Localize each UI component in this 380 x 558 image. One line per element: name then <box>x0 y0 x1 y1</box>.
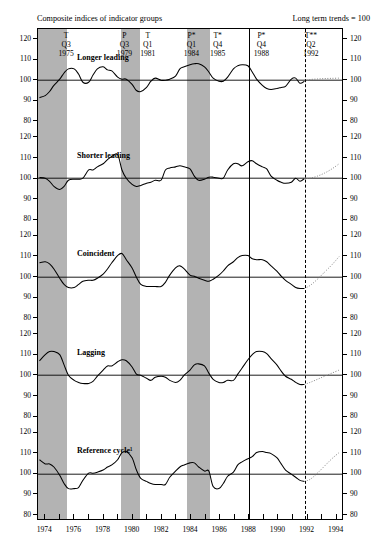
panel-label: Coincident <box>77 249 114 258</box>
turning-point-year: 1981 <box>140 49 155 58</box>
y-tick-mark <box>343 395 347 396</box>
x-tick-mark <box>73 514 74 520</box>
x-tick-mark <box>103 514 104 520</box>
y-tick-mark <box>33 452 37 453</box>
y-tick-mark <box>33 157 37 158</box>
y-tick-mark <box>33 219 37 220</box>
y-tick-label: 100 <box>14 173 31 182</box>
y-tick-mark <box>343 374 347 375</box>
series-line <box>39 451 304 489</box>
x-tick-label: 1974 <box>37 525 52 534</box>
panel-label: Lagging <box>77 348 105 357</box>
x-tick-mark <box>190 514 191 520</box>
y-tick-label: 100 <box>350 75 367 84</box>
y-tick-mark <box>33 473 37 474</box>
y-tick-label: 110 <box>14 153 31 162</box>
y-tick-label: 120 <box>350 34 367 43</box>
chart-panel: Shorter leading <box>38 127 342 225</box>
turning-point-quarter: Q1 <box>143 40 152 49</box>
turning-point-quarter: Q3 <box>120 40 129 49</box>
y-tick-label: 80 <box>14 313 31 322</box>
y-tick-label: 100 <box>14 75 31 84</box>
y-tick-label: 120 <box>350 329 367 338</box>
chart-plot-area: Longer leadingShorter leadingCoincidentL… <box>37 28 343 520</box>
y-tick-label: 100 <box>14 370 31 379</box>
y-tick-label: 100 <box>14 468 31 477</box>
y-tick-mark <box>343 297 347 298</box>
x-tick-mark <box>336 514 337 520</box>
y-tick-label: 80 <box>350 116 367 125</box>
y-tick-label: 120 <box>350 427 367 436</box>
x-tick-mark <box>132 514 133 520</box>
y-tick-label: 110 <box>14 54 31 63</box>
y-tick-mark <box>33 120 37 121</box>
turning-point-quarter: Q4 <box>257 40 266 49</box>
y-tick-mark <box>33 514 37 515</box>
y-tick-label: 90 <box>14 489 31 498</box>
series-projection-line <box>304 164 339 179</box>
y-tick-mark <box>343 276 347 277</box>
y-tick-mark <box>343 157 347 158</box>
y-tick-mark <box>33 79 37 80</box>
turning-point-code: T* <box>213 31 221 40</box>
y-tick-mark <box>33 235 37 236</box>
x-tick-mark <box>146 514 147 520</box>
turning-point-code: T <box>145 31 150 40</box>
y-tick-mark <box>33 333 37 334</box>
y-tick-mark <box>33 276 37 277</box>
x-tick-label: 1992 <box>299 525 314 534</box>
y-tick-label: 100 <box>350 370 367 379</box>
y-tick-mark <box>33 100 37 101</box>
y-tick-mark <box>343 120 347 121</box>
y-tick-label: 90 <box>350 194 367 203</box>
y-tick-label: 80 <box>350 411 367 420</box>
y-tick-mark <box>343 79 347 80</box>
y-tick-mark <box>33 297 37 298</box>
x-tick-label: 1986 <box>212 525 227 534</box>
turning-point-year: 1985 <box>210 49 225 58</box>
turning-point-year: 1984 <box>184 49 199 58</box>
series-projection-line <box>304 452 339 481</box>
turning-point-code: T** <box>305 31 317 40</box>
y-tick-mark <box>343 255 347 256</box>
turning-point-quarter: Q3 <box>62 40 71 49</box>
y-tick-label: 110 <box>350 251 367 260</box>
x-tick-label: 1982 <box>153 525 168 534</box>
y-tick-label: 80 <box>14 510 31 519</box>
y-tick-label: 110 <box>14 349 31 358</box>
y-tick-mark <box>343 416 347 417</box>
y-tick-label: 90 <box>350 489 367 498</box>
y-tick-mark <box>33 493 37 494</box>
x-tick-mark <box>307 514 308 520</box>
y-tick-label: 110 <box>14 251 31 260</box>
series-projection-line <box>304 256 339 288</box>
y-tick-label: 80 <box>14 411 31 420</box>
y-tick-mark <box>343 219 347 220</box>
y-tick-mark <box>33 178 37 179</box>
x-tick-mark <box>263 514 264 520</box>
y-tick-mark <box>33 432 37 433</box>
y-tick-label: 120 <box>14 230 31 239</box>
chart-panel: Reference cycle¹ <box>38 423 342 521</box>
y-tick-mark <box>33 354 37 355</box>
y-tick-label: 110 <box>350 153 367 162</box>
x-tick-mark <box>175 514 176 520</box>
x-tick-mark <box>161 514 162 520</box>
y-tick-mark <box>33 317 37 318</box>
y-tick-label: 90 <box>14 292 31 301</box>
x-tick-mark <box>88 514 89 520</box>
y-tick-mark <box>33 38 37 39</box>
y-tick-mark <box>343 473 347 474</box>
x-tick-mark <box>59 514 60 520</box>
x-tick-label: 1984 <box>182 525 197 534</box>
y-tick-label: 100 <box>14 272 31 281</box>
y-tick-mark <box>343 59 347 60</box>
y-tick-label: 80 <box>14 116 31 125</box>
x-tick-label: 1994 <box>328 525 343 534</box>
y-tick-label: 90 <box>350 292 367 301</box>
y-tick-mark <box>33 198 37 199</box>
turning-point-quarter: Q1 <box>187 40 196 49</box>
y-tick-label: 80 <box>350 510 367 519</box>
y-tick-mark <box>343 100 347 101</box>
turning-point-year: 1992 <box>303 49 318 58</box>
